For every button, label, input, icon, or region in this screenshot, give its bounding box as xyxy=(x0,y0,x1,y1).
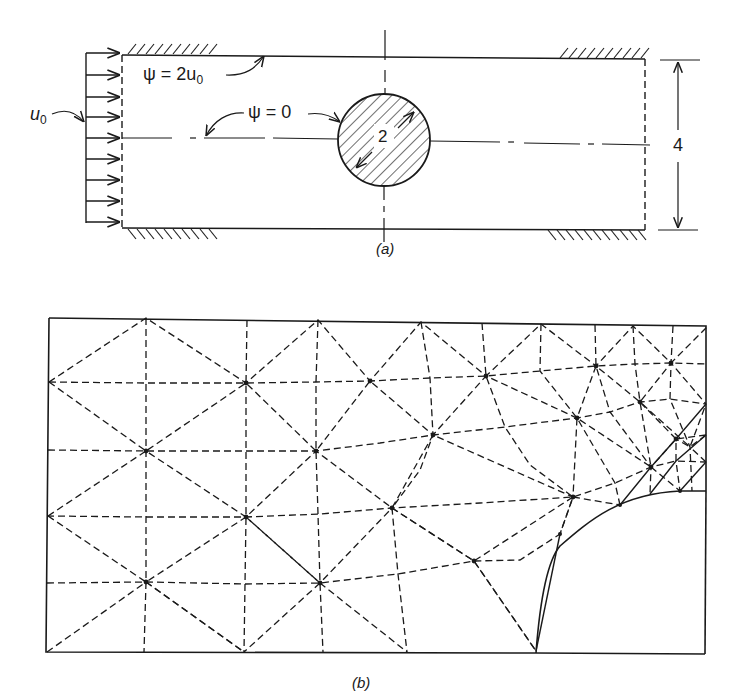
mesh-solid-near-cylinder xyxy=(536,404,706,651)
mesh-dashed-lines xyxy=(47,318,708,652)
figure-b-mesh xyxy=(0,0,740,698)
mesh-nodes xyxy=(144,361,682,586)
figure-b-caption: (b) xyxy=(352,674,370,691)
